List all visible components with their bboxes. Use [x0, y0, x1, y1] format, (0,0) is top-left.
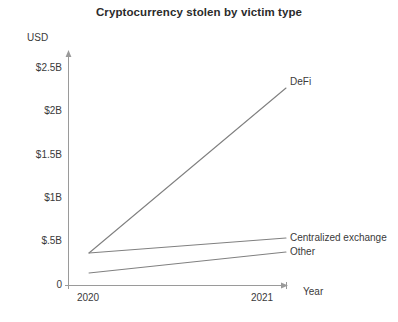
- chart-plot-area: [0, 0, 398, 322]
- chart-container: Cryptocurrency stolen by victim type USD…: [0, 0, 398, 322]
- y-tick-label-2.5b: $2.5B: [0, 62, 62, 73]
- y-tick-label-1.5b: $1.5B: [0, 149, 62, 160]
- series-line-other: [89, 252, 286, 273]
- series-label-defi: DeFi: [290, 76, 311, 87]
- y-tick-label-0.5b: $.5B: [0, 235, 62, 246]
- series-line-defi: [89, 88, 286, 253]
- x-axis-title: Year: [303, 286, 323, 297]
- x-tick-label-2021: 2021: [240, 292, 284, 303]
- y-axis-arrow-icon: [66, 50, 72, 57]
- y-tick-label-0: 0: [0, 279, 62, 290]
- y-axis-title: USD: [27, 32, 48, 43]
- series-label-centralized-exchange: Centralized exchange: [290, 232, 387, 243]
- x-tick-label-2020: 2020: [66, 292, 110, 303]
- series-line-centralized-exchange: [89, 238, 286, 253]
- y-tick-label-2b: $2B: [0, 105, 62, 116]
- y-tick-label-1b: $1B: [0, 192, 62, 203]
- series-label-other: Other: [290, 246, 315, 257]
